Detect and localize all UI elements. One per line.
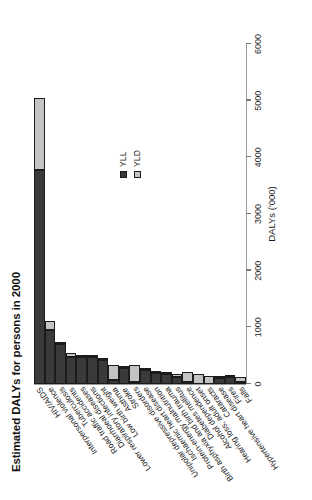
legend-swatch-yld — [134, 171, 141, 178]
bar-row — [45, 44, 56, 384]
bar-segment-yll — [151, 373, 162, 384]
bar-segment-yll — [55, 344, 66, 384]
bar-stack — [55, 342, 66, 384]
bar-stack — [98, 358, 109, 384]
bar-segment-yld — [182, 372, 193, 382]
bar-stack — [45, 321, 56, 384]
bar-segment-yld — [66, 353, 77, 356]
bar-segment-yld — [225, 375, 236, 377]
bar-segment-yld — [214, 376, 225, 378]
x-axis-title: DALYs ('000) — [266, 44, 277, 384]
bar-stack — [172, 374, 183, 384]
x-axis-tick — [246, 213, 251, 214]
bar-segment-yld — [45, 321, 56, 330]
bar-segment-yld — [172, 374, 183, 377]
bar-row — [87, 44, 98, 384]
x-axis-tick-label: 3000 — [253, 204, 263, 224]
bar-segment-yld — [76, 355, 87, 357]
bar-segment-yld — [98, 358, 109, 360]
bar-segment-yll — [66, 357, 77, 384]
bar-segment-yld — [129, 365, 140, 382]
bar-row — [140, 44, 151, 384]
bar-segment-yld — [151, 371, 162, 373]
x-axis-tick — [246, 99, 251, 100]
bar-row — [214, 44, 225, 384]
bar-stack — [66, 353, 77, 384]
dalys-bar-chart: Estimated DALYs for persons in 2000 0100… — [0, 0, 312, 500]
bar-row — [235, 44, 246, 384]
bar-stack — [193, 374, 204, 384]
x-axis-tick-label: 0 — [253, 381, 263, 386]
bars-layer — [34, 44, 246, 384]
bar-segment-yld — [235, 377, 246, 382]
bar-segment-yld — [108, 365, 119, 380]
bar-row — [55, 44, 66, 384]
bar-stack — [129, 365, 140, 384]
bar-segment-yll — [45, 330, 56, 384]
x-axis-tick-label: 4000 — [253, 147, 263, 167]
x-axis-tick — [246, 269, 251, 270]
bar-segment-yll — [34, 170, 45, 384]
legend-label: YLL — [118, 151, 128, 167]
legend-item: YLL — [118, 150, 128, 178]
bar-segment-yld — [87, 355, 98, 357]
x-axis-tick — [246, 326, 251, 327]
bar-stack — [182, 372, 193, 384]
bar-row — [129, 44, 140, 384]
bar-stack — [87, 355, 98, 384]
bar-segment-yll — [140, 370, 151, 384]
bar-segment-yld — [193, 374, 204, 384]
bar-stack — [140, 368, 151, 384]
bar-row — [151, 44, 162, 384]
chart-legend: YLLYLD — [118, 150, 146, 178]
bar-segment-yll — [98, 360, 109, 384]
x-axis-tick-label: 1000 — [253, 317, 263, 337]
bar-row — [204, 44, 215, 384]
x-axis-tick — [246, 43, 251, 44]
bar-row — [182, 44, 193, 384]
bar-row — [119, 44, 130, 384]
bar-segment-yld — [119, 366, 130, 368]
bar-row — [161, 44, 172, 384]
bar-segment-yld — [140, 368, 151, 370]
bar-row — [66, 44, 77, 384]
x-axis-tick-label: 5000 — [253, 91, 263, 111]
bar-stack — [119, 366, 130, 384]
bar-stack — [76, 355, 87, 384]
bar-stack — [108, 365, 119, 384]
category-labels: HIV/AIDSInterpersonal violenceTuberculos… — [34, 384, 246, 500]
bar-segment-yll — [161, 374, 172, 384]
x-axis-tick-label: 6000 — [253, 34, 263, 54]
x-axis-tick — [246, 383, 251, 384]
x-axis-tick-label: 2000 — [253, 261, 263, 281]
bar-segment-yld — [55, 342, 66, 344]
bar-segment-yld — [161, 372, 172, 374]
bar-stack — [151, 371, 162, 384]
bar-segment-yld — [34, 98, 45, 170]
bar-stack — [161, 372, 172, 384]
bar-segment-yll — [119, 368, 130, 384]
legend-swatch-yll — [120, 171, 127, 178]
bar-row — [108, 44, 119, 384]
bar-segment-yll — [76, 357, 87, 384]
bar-stack — [34, 98, 45, 384]
x-axis-line: 0100020003000400050006000 — [246, 44, 247, 384]
bar-row — [76, 44, 87, 384]
bar-row — [193, 44, 204, 384]
bar-row — [172, 44, 183, 384]
x-axis-tick — [246, 156, 251, 157]
bar-row — [225, 44, 236, 384]
legend-item: YLD — [132, 150, 142, 178]
bar-segment-yll — [87, 357, 98, 384]
chart-rotation-wrapper: Estimated DALYs for persons in 2000 0100… — [0, 0, 312, 500]
bar-row — [98, 44, 109, 384]
plot-area — [34, 44, 246, 384]
legend-label: YLD — [132, 150, 142, 167]
chart-title: Estimated DALYs for persons in 2000 — [10, 272, 22, 472]
bar-row — [34, 44, 45, 384]
